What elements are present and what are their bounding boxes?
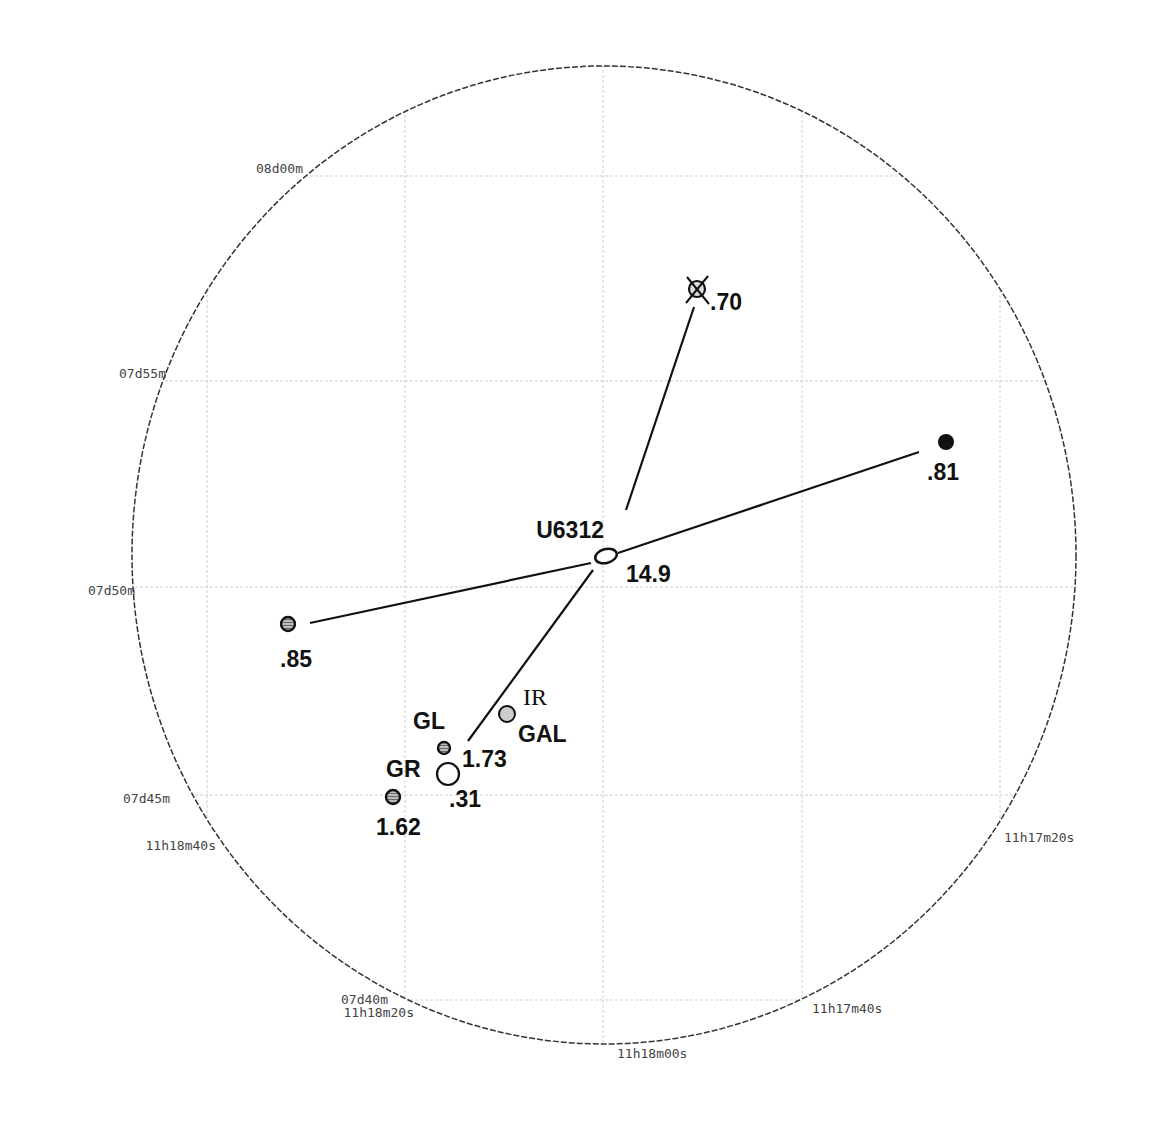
source-gl-marker-icon[interactable]: [438, 742, 450, 754]
connector-to-173: [468, 570, 593, 741]
source-031-value: .31: [449, 786, 481, 812]
source-gr-label: GR: [386, 756, 421, 782]
source-085-marker-icon[interactable]: [281, 617, 295, 631]
source-gal-label: GAL: [518, 721, 567, 747]
dec-label-07d55m: 07d55m: [119, 366, 166, 381]
source-070-marker-icon[interactable]: [686, 276, 709, 304]
connector-to-081: [618, 452, 919, 553]
dec-label-08d00m: 08d00m: [256, 161, 303, 176]
source-085-value: .85: [280, 646, 312, 672]
source-081-value: .81: [927, 459, 959, 485]
source-162-value: 1.62: [376, 814, 421, 840]
source-gl-label: GL: [413, 708, 445, 734]
source-ir-gal-marker-icon[interactable]: [499, 706, 515, 722]
source-162-marker-icon[interactable]: [386, 790, 400, 804]
source-ir-label: IR: [523, 684, 547, 710]
dec-label-07d50m: 07d50m: [88, 583, 135, 598]
center-object-value: 14.9: [626, 561, 671, 587]
ra-label-11h18m40s: 11h18m40s: [146, 838, 216, 853]
connector-to-070: [626, 307, 694, 510]
source-070-value: .70: [710, 289, 742, 315]
center-object-name: U6312: [536, 517, 604, 543]
dec-label-07d45m: 07d45m: [123, 791, 170, 806]
ra-label-11h17m20s: 11h17m20s: [1004, 830, 1074, 845]
ra-label-11h18m20s: 11h18m20s: [344, 1005, 414, 1020]
galaxy-u6312-marker-icon[interactable]: [594, 546, 619, 565]
coordinate-grid: [0, 0, 1165, 1121]
source-gr-marker-icon[interactable]: [437, 763, 459, 785]
finding-chart: 08d00m 07d55m 07d50m 07d45m 07d40m 11h18…: [0, 0, 1165, 1121]
ra-label-11h17m40s: 11h17m40s: [812, 1001, 882, 1016]
ra-label-11h18m00s: 11h18m00s: [617, 1046, 687, 1061]
source-173-value: 1.73: [462, 746, 507, 772]
source-081-marker-icon[interactable]: [938, 434, 954, 450]
connector-to-085: [310, 563, 591, 623]
